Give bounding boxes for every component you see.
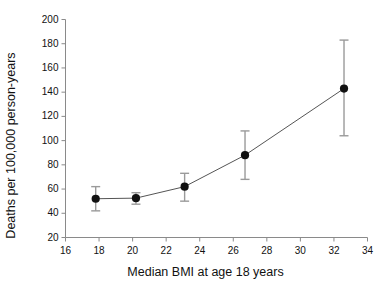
data-line: [96, 89, 344, 199]
chart-figure: Deaths per 100,000 person-years Median B…: [0, 0, 385, 291]
y-tick-label: 80: [47, 159, 58, 170]
x-tick-label: 30: [286, 245, 314, 256]
x-tick-label: 16: [52, 245, 80, 256]
data-point-marker: [241, 151, 249, 159]
x-tick-label: 26: [219, 245, 247, 256]
x-tick-label: 34: [354, 245, 382, 256]
y-tick-label: 60: [47, 183, 58, 194]
y-tick-label: 20: [47, 232, 58, 243]
data-point-marker: [340, 84, 348, 92]
y-tick-label: 160: [42, 62, 59, 73]
y-tick-label: 120: [42, 110, 59, 121]
y-tick-label: 140: [42, 86, 59, 97]
data-point-marker: [181, 183, 189, 191]
x-tick-label: 18: [85, 245, 113, 256]
y-tick-label: 100: [42, 135, 59, 146]
y-tick-label: 180: [42, 38, 59, 49]
y-tick-label: 200: [42, 14, 59, 25]
x-tick-label: 28: [253, 245, 281, 256]
y-tick-label: 40: [47, 207, 58, 218]
x-tick-label: 22: [152, 245, 180, 256]
x-tick-label: 20: [119, 245, 147, 256]
data-point-marker: [92, 195, 100, 203]
x-tick-label: 32: [320, 245, 348, 256]
data-point-marker: [132, 194, 140, 202]
x-tick-label: 24: [186, 245, 214, 256]
